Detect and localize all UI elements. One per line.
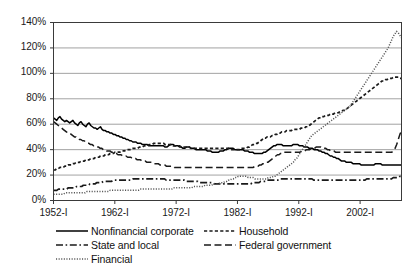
legend-label: State and local [91,239,159,251]
legend-column-left: Nonfinancial corporateState and localFin… [55,224,194,266]
series-line-household [54,77,402,170]
legend-swatch-icon [55,253,91,265]
legend-item-state-and-local: State and local [55,238,194,252]
chart-container: 0%20%40%60%80%100%120%140% 1952-I1962-I1… [0,0,419,267]
y-axis-tick-label: 140% [0,16,46,27]
x-axis-tick-label: 1992-I [269,207,329,218]
legend-item-nonfinancial-corporate: Nonfinancial corporate [55,224,194,238]
x-axis-tick-label: 1952-I [24,207,84,218]
plot-frame [50,23,402,201]
legend-column-right: HouseholdFederal government [203,224,331,252]
legend-item-federal-government: Federal government [203,238,331,252]
series-line-financial [54,31,402,194]
y-axis-tick-label: 120% [0,41,46,52]
x-tick-marks [54,201,361,205]
legend-swatch-icon [203,225,239,237]
x-axis-tick-label: 2002-I [330,207,390,218]
legend-label: Federal government [239,239,331,251]
series-lines [54,31,402,194]
legend-label: Financial [91,253,132,265]
series-line-state-and-local [54,176,402,190]
legend-swatch-icon [55,239,91,251]
legend-swatch-icon [203,239,239,251]
series-line-federal-government [54,122,402,168]
legend-item-household: Household [203,224,331,238]
legend-label: Household [239,225,288,237]
legend-item-financial: Financial [55,252,194,266]
x-axis-tick-label: 1962-I [85,207,145,218]
legend-label: Nonfinancial corporate [91,225,194,237]
y-axis-tick-label: 0% [0,194,46,205]
chart-legend: Nonfinancial corporateState and localFin… [55,224,415,266]
y-axis-tick-label: 40% [0,143,46,154]
axis-frame [54,23,402,201]
x-axis-tick-label: 1982-I [207,207,267,218]
y-axis-tick-label: 80% [0,92,46,103]
y-axis-tick-label: 100% [0,66,46,77]
y-axis-tick-label: 60% [0,117,46,128]
legend-swatch-icon [55,225,91,237]
y-axis-tick-label: 20% [0,168,46,179]
x-axis-tick-label: 1972-I [146,207,206,218]
